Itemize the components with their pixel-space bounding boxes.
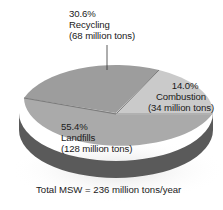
landfills-percent: 55.4% bbox=[61, 121, 132, 132]
combustion-percent: 14.0% bbox=[140, 80, 222, 91]
label-landfills: 55.4% Landfills (128 million tons) bbox=[61, 121, 132, 154]
landfills-name: Landfills bbox=[61, 132, 132, 143]
recycling-name: Recycling bbox=[69, 19, 135, 30]
landfills-amount: (128 million tons) bbox=[61, 143, 132, 154]
total-caption: Total MSW = 236 million tons/year bbox=[36, 184, 181, 195]
combustion-amount: (34 million tons) bbox=[140, 102, 222, 113]
recycling-percent: 30.6% bbox=[69, 8, 135, 19]
combustion-name: Combustion bbox=[140, 91, 222, 102]
label-recycling: 30.6% Recycling (68 million tons) bbox=[69, 8, 135, 41]
recycling-amount: (68 million tons) bbox=[69, 30, 135, 41]
label-combustion: 14.0% Combustion (34 million tons) bbox=[140, 80, 222, 113]
